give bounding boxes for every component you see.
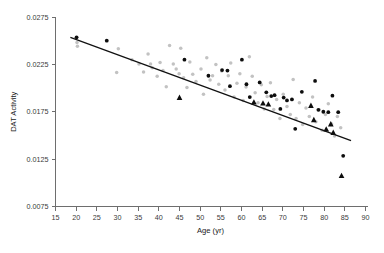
y-tick-label: 0.0225 <box>27 60 49 69</box>
data-point-circle <box>316 108 320 112</box>
data-point-circle <box>202 92 206 96</box>
data-point-circle <box>245 82 249 86</box>
y-tick-label: 0.0125 <box>27 155 49 164</box>
data-point-circle <box>223 88 227 92</box>
data-point-triangle <box>177 95 183 100</box>
data-point-circle <box>227 74 231 78</box>
data-point-circle <box>272 108 276 112</box>
data-point-circle <box>289 113 293 117</box>
x-tick-label: 50 <box>196 213 204 222</box>
data-point-circle <box>228 84 232 88</box>
data-point-circle <box>321 110 325 114</box>
data-point-circle <box>290 98 294 102</box>
data-point-circle <box>183 58 187 62</box>
x-tick-label: 60 <box>238 213 246 222</box>
data-point-circle <box>251 74 255 78</box>
data-point-circle <box>273 93 277 97</box>
data-point-circle <box>308 115 312 119</box>
data-point-triangle <box>266 101 272 106</box>
x-tick-label: 15 <box>52 213 60 222</box>
data-point-circle <box>165 85 169 89</box>
data-point-circle <box>327 102 331 106</box>
data-point-circle <box>208 78 212 82</box>
data-point-circle <box>220 68 224 72</box>
data-point-circle <box>248 55 252 59</box>
data-point-circle <box>285 98 289 102</box>
data-point-circle <box>214 63 218 67</box>
data-point-circle <box>339 126 343 130</box>
data-point-circle <box>188 60 192 64</box>
data-point-circle <box>199 67 203 71</box>
data-point-circle <box>311 95 315 99</box>
data-point-circle <box>117 47 121 51</box>
x-tick-label: 70 <box>279 213 287 222</box>
data-point-circle <box>240 58 244 62</box>
data-point-circle <box>172 62 176 66</box>
data-point-circle <box>217 83 221 87</box>
data-point-circle <box>285 105 289 109</box>
data-point-circle <box>179 47 183 51</box>
x-tick-label: 40 <box>155 213 163 222</box>
y-tick-label: 0.0175 <box>27 107 49 116</box>
data-point-circle <box>269 94 273 98</box>
data-point-circle <box>185 86 189 90</box>
data-point-circle <box>291 78 295 82</box>
y-tick-label: 0.0075 <box>27 202 49 211</box>
x-tick-label: 65 <box>258 213 266 222</box>
x-tick-label: 30 <box>114 213 122 222</box>
data-point-circle <box>248 95 252 99</box>
data-point-triangle <box>339 173 345 178</box>
data-point-circle <box>275 98 279 102</box>
data-point-circle <box>258 80 262 84</box>
data-point-circle <box>313 79 317 83</box>
x-tick-label: 85 <box>341 213 349 222</box>
data-point-circle <box>278 117 282 121</box>
x-tick-label: 45 <box>176 213 184 222</box>
data-point-circle <box>226 69 230 73</box>
data-point-triangle <box>311 117 317 122</box>
data-point-circle <box>76 45 80 49</box>
data-point-circle <box>146 52 150 56</box>
data-point-circle <box>211 74 215 78</box>
x-tick-label: 75 <box>300 213 308 222</box>
data-point-circle <box>105 39 109 43</box>
data-point-circle <box>326 110 330 114</box>
data-point-circle <box>207 74 211 78</box>
data-point-circle <box>142 70 146 74</box>
data-point-circle <box>300 90 304 94</box>
data-point-circle <box>331 94 335 98</box>
data-point-circle <box>336 110 340 114</box>
regression-line <box>70 37 351 140</box>
data-point-circle <box>235 82 239 86</box>
data-point-circle <box>253 91 257 95</box>
data-point-circle <box>168 44 172 48</box>
y-axis-title: DAT Activity <box>9 91 18 131</box>
data-point-circle <box>229 61 233 64</box>
data-point-triangle <box>308 103 314 108</box>
data-point-circle <box>238 72 242 76</box>
data-point-circle <box>191 73 195 77</box>
plot-area: 0.00750.01250.01750.02250.02751520253035… <box>0 0 384 253</box>
data-point-circle <box>341 154 345 158</box>
data-point-circle <box>256 101 260 105</box>
data-point-circle <box>155 74 159 78</box>
data-point-circle <box>174 67 178 71</box>
data-point-circle <box>282 92 286 96</box>
data-point-circle <box>265 95 269 99</box>
data-point-circle <box>177 72 181 76</box>
data-point-circle <box>293 127 297 131</box>
data-point-circle <box>205 56 209 60</box>
data-point-triangle <box>260 100 266 105</box>
data-point-circle <box>149 62 153 66</box>
data-point-circle <box>304 106 308 110</box>
data-point-circle <box>264 90 268 94</box>
x-tick-label: 25 <box>93 213 101 222</box>
y-tick-label: 0.0275 <box>27 13 49 22</box>
data-point-circle <box>278 107 282 111</box>
x-tick-label: 35 <box>134 213 142 222</box>
data-point-circle <box>336 115 340 119</box>
x-tick-label: 90 <box>362 213 370 222</box>
data-point-circle <box>282 96 286 100</box>
scatter-chart: 0.00750.01250.01750.02250.02751520253035… <box>0 0 384 253</box>
data-point-circle <box>269 81 273 85</box>
